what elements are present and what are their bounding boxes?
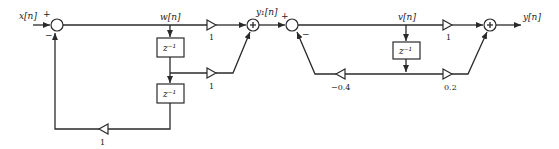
gain-label-feedback-1: 1	[100, 138, 105, 147]
label-y-n: y[n]	[522, 12, 541, 22]
gain-triangle-feedback-2	[336, 69, 345, 79]
plus-sign-2: +	[281, 11, 289, 21]
label-y1-n: y₁[n]	[255, 7, 278, 17]
tap1-to-adder	[216, 32, 250, 73]
tap2-to-adder	[452, 32, 487, 74]
gain-triangle-feedback-1	[99, 124, 108, 134]
gain-label-tap-1: 1	[209, 82, 214, 91]
label-x-n: x[n]	[19, 11, 37, 21]
label-v-n: v[n]	[398, 12, 416, 22]
gain-triangle-tap-1	[207, 68, 216, 78]
delay-label-1: z⁻¹	[162, 43, 176, 53]
gain-triangle-tap-2	[443, 69, 452, 79]
gain-triangle-direct-2	[443, 20, 452, 30]
feedback-line-1a	[108, 103, 170, 129]
block-diagram: x[n] + − w[n] z⁻¹ z⁻¹ 1 1 1 y₁[n] + − v[…	[0, 0, 559, 149]
label-w-n: w[n]	[160, 12, 181, 22]
summing-junction-1	[51, 19, 63, 31]
gain-label-direct-2: 1	[446, 33, 451, 42]
minus-sign-1: −	[45, 30, 53, 40]
gain-label-feedback-2: −0.4	[331, 83, 350, 92]
plus-sign-1: +	[43, 9, 51, 19]
gain-triangle-direct-1	[207, 20, 216, 30]
gain-label-direct-1: 1	[209, 33, 214, 42]
gain-label-tap-2: 0.2	[444, 83, 457, 92]
feedback-line-1b	[55, 33, 99, 129]
delay-label-3: z⁻¹	[398, 46, 412, 56]
delay-label-2: z⁻¹	[162, 89, 176, 99]
minus-sign-2: −	[302, 29, 310, 39]
